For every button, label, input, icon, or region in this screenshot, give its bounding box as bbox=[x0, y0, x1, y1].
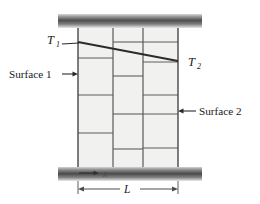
surface-1-label: Surface 1 bbox=[9, 68, 52, 80]
wall-fill bbox=[78, 28, 178, 167]
dimension-arrow-left-icon bbox=[78, 187, 84, 192]
temperature-cold-annotation: T 2 bbox=[188, 55, 201, 71]
t1-leader-line bbox=[62, 43, 79, 44]
surface-2-callout: Surface 2 bbox=[178, 105, 242, 117]
x-label: x bbox=[102, 169, 108, 179]
plane-wall-conduction-figure: T 1 T 2 Surface 1 Surface 2 x bbox=[0, 0, 260, 204]
thickness-label: L bbox=[123, 183, 130, 195]
t2-label: T bbox=[188, 55, 196, 69]
thickness-dimension: L bbox=[78, 181, 178, 195]
dimension-arrow-right-icon bbox=[172, 187, 178, 192]
surface-2-arrow-icon bbox=[178, 109, 184, 114]
temperature-hot-annotation: T 1 bbox=[47, 33, 79, 49]
surface-1-arrow-icon bbox=[73, 72, 79, 77]
surface-1-callout: Surface 1 bbox=[9, 68, 78, 80]
surface-2-label: Surface 2 bbox=[199, 105, 242, 117]
t1-label: T bbox=[47, 33, 55, 47]
figure-canvas: T 1 T 2 Surface 1 Surface 2 x bbox=[0, 0, 260, 204]
top-slab bbox=[58, 14, 202, 28]
bottom-slab bbox=[58, 167, 202, 181]
t1-subscript: 1 bbox=[56, 40, 60, 49]
t2-subscript: 2 bbox=[197, 62, 201, 71]
